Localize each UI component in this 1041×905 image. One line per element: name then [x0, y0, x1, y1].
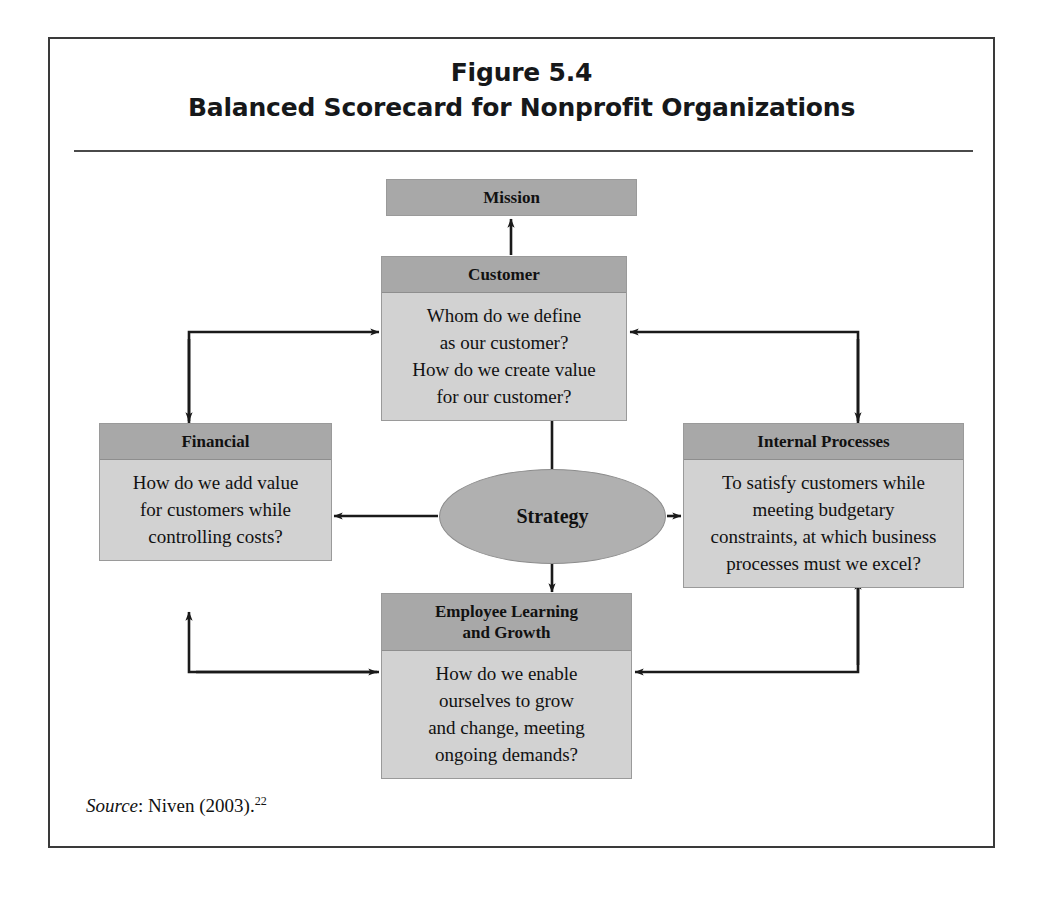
node-internal-processes-body: To satisfy customers while meeting budge…	[684, 460, 963, 587]
source-label: Source	[86, 795, 138, 816]
node-employee-title-line-2: and Growth	[386, 622, 627, 643]
title-divider	[74, 150, 973, 152]
node-mission-title: Mission	[387, 180, 636, 215]
figure-subtitle: Balanced Scorecard for Nonprofit Organiz…	[50, 90, 993, 126]
node-employee-title-line-1: Employee Learning	[386, 601, 627, 622]
node-customer-line-3: How do we create value	[390, 356, 618, 383]
node-customer-title: Customer	[382, 257, 626, 293]
node-financial-line-1: How do we add value	[108, 469, 323, 496]
node-customer-line-2: as our customer?	[390, 329, 618, 356]
source-note: Source: Niven (2003).22	[86, 794, 267, 817]
node-employee-line-3: and change, meeting	[390, 714, 623, 741]
node-internal-processes-line-4: processes must we excel?	[692, 550, 955, 577]
node-employee-learning-growth-body: How do we enable ourselves to grow and c…	[382, 651, 631, 778]
node-employee-line-4: ongoing demands?	[390, 741, 623, 768]
node-employee-line-1: How do we enable	[390, 660, 623, 687]
figure-frame: Figure 5.4 Balanced Scorecard for Nonpro…	[48, 37, 995, 848]
source-text: : Niven (2003).	[138, 795, 255, 816]
node-financial-line-2: for customers while	[108, 496, 323, 523]
node-customer-line-4: for our customer?	[390, 383, 618, 410]
node-financial[interactable]: Financial How do we add value for custom…	[99, 423, 332, 561]
node-customer-body: Whom do we define as our customer? How d…	[382, 293, 626, 420]
figure-number: Figure 5.4	[50, 56, 993, 90]
node-employee-line-2: ourselves to grow	[390, 687, 623, 714]
node-financial-line-3: controlling costs?	[108, 523, 323, 550]
node-strategy-label: Strategy	[516, 505, 588, 528]
node-customer[interactable]: Customer Whom do we define as our custom…	[381, 256, 627, 421]
node-internal-processes-line-3: constraints, at which business	[692, 523, 955, 550]
node-strategy[interactable]: Strategy	[439, 469, 666, 564]
node-customer-line-1: Whom do we define	[390, 302, 618, 329]
node-internal-processes-line-2: meeting budgetary	[692, 496, 955, 523]
node-internal-processes[interactable]: Internal Processes To satisfy customers …	[683, 423, 964, 588]
node-internal-processes-title: Internal Processes	[684, 424, 963, 460]
node-mission[interactable]: Mission	[386, 179, 637, 216]
node-employee-learning-growth[interactable]: Employee Learning and Growth How do we e…	[381, 593, 632, 779]
node-financial-body: How do we add value for customers while …	[100, 460, 331, 560]
node-internal-processes-line-1: To satisfy customers while	[692, 469, 955, 496]
node-employee-learning-growth-title: Employee Learning and Growth	[382, 594, 631, 651]
source-footnote-marker: 22	[255, 794, 267, 808]
node-financial-title: Financial	[100, 424, 331, 460]
figure-title-block: Figure 5.4 Balanced Scorecard for Nonpro…	[50, 56, 993, 126]
